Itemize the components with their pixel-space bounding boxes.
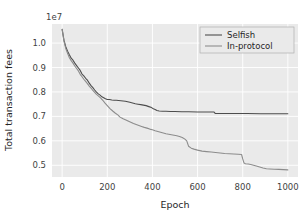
y-axis-label: Total transaction fees	[3, 49, 14, 152]
chart-legend[interactable]: Selfish In-protocol	[200, 27, 294, 53]
x-tick-label: 0	[59, 182, 64, 192]
x-tick-label: 1000	[277, 182, 299, 192]
x-axis-label: Epoch	[160, 199, 189, 210]
y-axis-offset-text: 1e7	[46, 12, 62, 22]
y-axis-ticks: 0.50.60.70.80.91.0	[32, 38, 46, 170]
legend-label-in-protocol: In-protocol	[227, 41, 273, 51]
x-tick-label: 800	[235, 182, 251, 192]
y-tick-label: 0.6	[32, 136, 46, 146]
legend-label-selfish: Selfish	[227, 30, 255, 40]
x-tick-label: 200	[99, 182, 115, 192]
line-chart: 02004006008001000 0.50.60.70.80.91.0 1e7…	[0, 0, 307, 219]
x-tick-label: 600	[189, 182, 205, 192]
x-axis-ticks: 02004006008001000	[59, 182, 298, 192]
y-tick-label: 0.7	[32, 111, 46, 121]
y-tick-label: 0.5	[32, 160, 46, 170]
y-tick-label: 1.0	[32, 38, 46, 48]
chart-figure: 02004006008001000 0.50.60.70.80.91.0 1e7…	[0, 0, 307, 219]
y-tick-label: 0.9	[32, 63, 46, 73]
x-tick-label: 400	[144, 182, 160, 192]
y-tick-label: 0.8	[32, 87, 46, 97]
